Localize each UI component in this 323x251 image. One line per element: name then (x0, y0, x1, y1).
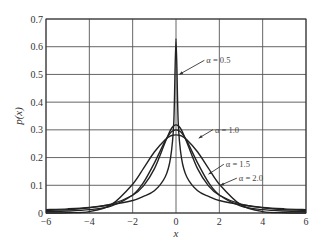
x-axis-ticks: −6−4−20246 (41, 216, 309, 227)
x-tick-label: −6 (41, 216, 52, 227)
x-axis-label: x (173, 227, 179, 239)
x-tick-label: 4 (260, 216, 265, 227)
y-tick-label: 0.4 (31, 97, 44, 108)
annotation-label: α = 1.0 (215, 125, 239, 135)
y-tick-label: 0.3 (31, 124, 44, 135)
y-axis-label: p(x) (12, 107, 25, 126)
x-tick-label: −2 (127, 216, 138, 227)
stable-distribution-chart: 00.10.20.30.40.50.60.7 −6−4−20246 α = 0.… (0, 0, 323, 251)
annotation-label: α = 2.0 (239, 173, 263, 183)
y-tick-label: 0.6 (31, 41, 44, 52)
y-tick-label: 0.1 (31, 180, 44, 191)
y-tick-label: 0.5 (31, 69, 44, 80)
x-tick-label: −4 (84, 216, 95, 227)
y-tick-label: 0.7 (31, 14, 44, 25)
x-tick-label: 0 (174, 216, 179, 227)
x-tick-label: 2 (217, 216, 222, 227)
x-tick-label: 6 (304, 216, 309, 227)
y-axis-ticks: 00.10.20.30.40.50.60.7 (31, 14, 44, 219)
annotation-label: α = 1.5 (226, 159, 250, 169)
y-tick-label: 0.2 (31, 152, 44, 163)
annotation-label: α = 0.5 (206, 55, 230, 65)
annotation-arrow (179, 60, 204, 74)
